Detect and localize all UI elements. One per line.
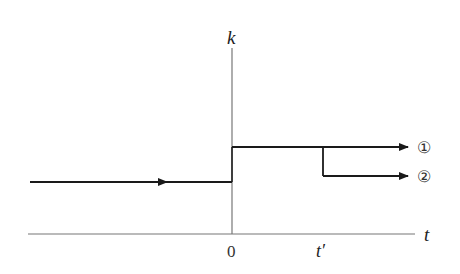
x-axis-label: t — [424, 224, 430, 245]
step-diagram: k t 0 t′ ① ② — [0, 0, 460, 274]
path-1-label: ① — [417, 139, 431, 156]
direction-arrow-icon — [158, 178, 168, 186]
y-axis-label: k — [227, 27, 236, 48]
t-prime-label: t′ — [316, 241, 326, 261]
origin-label: 0 — [227, 242, 236, 261]
path-2-label: ② — [417, 168, 431, 185]
